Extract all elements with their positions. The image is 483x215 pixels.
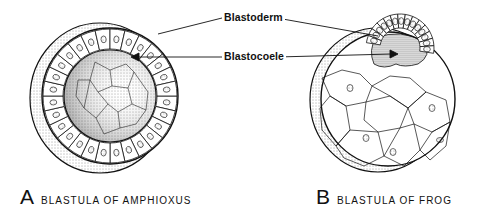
amphioxus-blastula — [30, 23, 178, 173]
blastula-diagram — [0, 0, 483, 215]
label-blastocoele: Blastocoele — [222, 50, 286, 62]
caption-b: BBLASTULA OF FROG — [316, 185, 452, 209]
caption-a: ABLASTULA OF AMPHIOXUS — [20, 185, 192, 209]
frog-blastula — [310, 14, 455, 172]
figure-letter-b: B — [316, 185, 330, 208]
label-blastoderm: Blastoderm — [222, 11, 285, 23]
caption-a-text: BLASTULA OF AMPHIOXUS — [41, 195, 191, 206]
figure-letter-a: A — [20, 185, 34, 208]
caption-b-text: BLASTULA OF FROG — [337, 195, 452, 206]
